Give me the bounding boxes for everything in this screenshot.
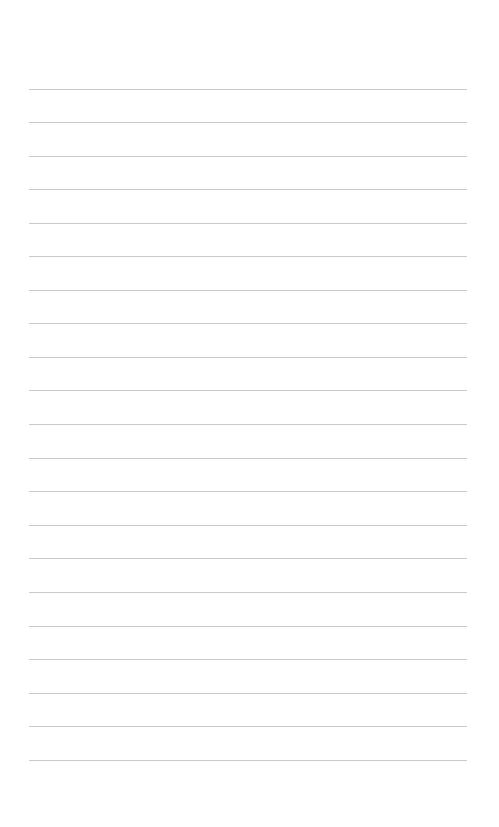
ruled-line [29,323,467,324]
ruled-line [29,156,467,157]
ruled-line [29,122,467,123]
ruled-line [29,256,467,257]
ruled-line [29,592,467,593]
ruled-line [29,290,467,291]
ruled-line [29,626,467,627]
ruled-line [29,424,467,425]
ruled-line [29,89,467,90]
ruled-line [29,458,467,459]
ruled-line [29,491,467,492]
ruled-line [29,659,467,660]
ruled-line [29,189,467,190]
ruled-line [29,558,467,559]
ruled-line [29,390,467,391]
lined-paper-page [0,0,499,827]
ruled-line [29,223,467,224]
ruled-line [29,525,467,526]
ruled-line [29,693,467,694]
ruled-line [29,760,467,761]
ruled-line [29,357,467,358]
ruled-line [29,726,467,727]
